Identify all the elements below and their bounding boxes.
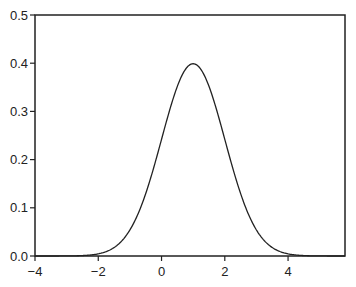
- x-axis: −4−2024: [28, 256, 292, 279]
- x-tick-label: −2: [91, 264, 106, 279]
- density-curve: [35, 64, 345, 256]
- x-tick-label: −4: [28, 264, 43, 279]
- y-tick-label: 0.3: [10, 104, 28, 119]
- y-tick-label: 0.4: [10, 56, 28, 71]
- plot-frame: [35, 15, 345, 256]
- x-tick-label: 2: [221, 264, 228, 279]
- y-axis: 0.00.10.20.30.40.5: [10, 8, 35, 264]
- y-tick-label: 0.1: [10, 200, 28, 215]
- y-tick-label: 0.0: [10, 249, 28, 264]
- chart: 0.00.10.20.30.40.5 −4−2024: [0, 0, 356, 287]
- y-tick-label: 0.5: [10, 8, 28, 23]
- x-tick-label: 4: [284, 264, 291, 279]
- y-tick-label: 0.2: [10, 152, 28, 167]
- x-tick-label: 0: [158, 264, 165, 279]
